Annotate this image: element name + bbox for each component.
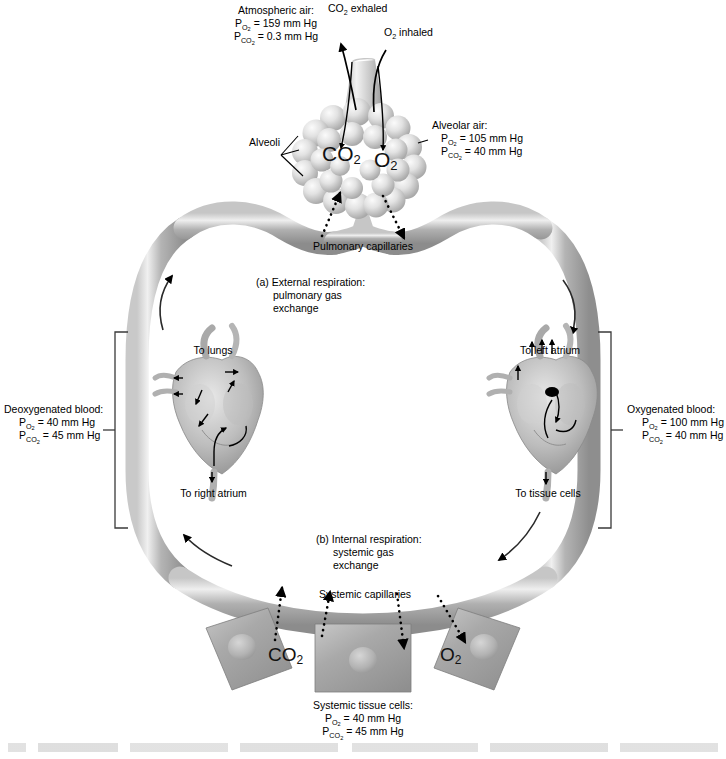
caption-fragment: [8, 743, 718, 752]
flow-arrow-left-up: [160, 276, 172, 330]
co2-exhaled-label: CO2 exhaled: [328, 2, 387, 15]
to-tissue-cells-label: To tissue cells: [488, 487, 608, 500]
co2-gas-label-tissue: CO2: [268, 644, 303, 666]
flow-arrow-bottom-left: [184, 535, 232, 566]
co2-gas-label-lung: CO2: [322, 142, 361, 166]
to-right-atrium-label: To right atrium: [146, 487, 281, 500]
alveolar-air-label: Alveolar air: PO2 = 105 mm Hg PCO2 = 40 …: [432, 119, 523, 159]
deoxygenated-blood-label: Deoxygenated blood: PO2 = 40 mm Hg PCO2 …: [4, 403, 103, 443]
tissue-cell-nucleus-center: [349, 647, 377, 673]
systemic-capillaries-label: Systemic capillaries: [295, 588, 435, 601]
to-left-atrium-label: To left atrium: [490, 344, 610, 357]
alveoli-label: Alveoli: [226, 136, 280, 149]
o2-inhaled-label: O2 inhaled: [384, 26, 433, 39]
diagram-artwork: [0, 0, 726, 759]
cut-off-caption-strip: [0, 741, 726, 759]
systemic-tissue-cells-label: Systemic tissue cells: PO2 = 40 mm Hg PC…: [288, 699, 438, 739]
internal-respiration-caption: (b) Internal respiration: systemic gas e…: [316, 533, 422, 573]
pulmonary-capillaries-label: Pulmonary capillaries: [293, 240, 433, 253]
flow-arrow-bottom-right: [499, 512, 540, 560]
oxygenated-blood-label: Oxygenated blood: PO2 = 100 mm Hg PCO2 =…: [627, 403, 724, 443]
external-respiration-caption: (a) External respiration: pulmonary gas …: [256, 276, 365, 316]
to-lungs-label: To lungs: [158, 344, 268, 357]
alveolar-cluster: [292, 59, 427, 219]
tissue-cell-nucleus-right: [470, 634, 498, 660]
o2-gas-label-tissue: O2: [440, 644, 461, 666]
left-bracket: [103, 332, 128, 528]
tissue-cell-nucleus-left: [228, 634, 256, 660]
diagram-canvas: Atmospheric air: PO2 = 159 mm Hg PCO2 = …: [0, 0, 726, 759]
o2-gas-label-lung: O2: [374, 148, 398, 172]
